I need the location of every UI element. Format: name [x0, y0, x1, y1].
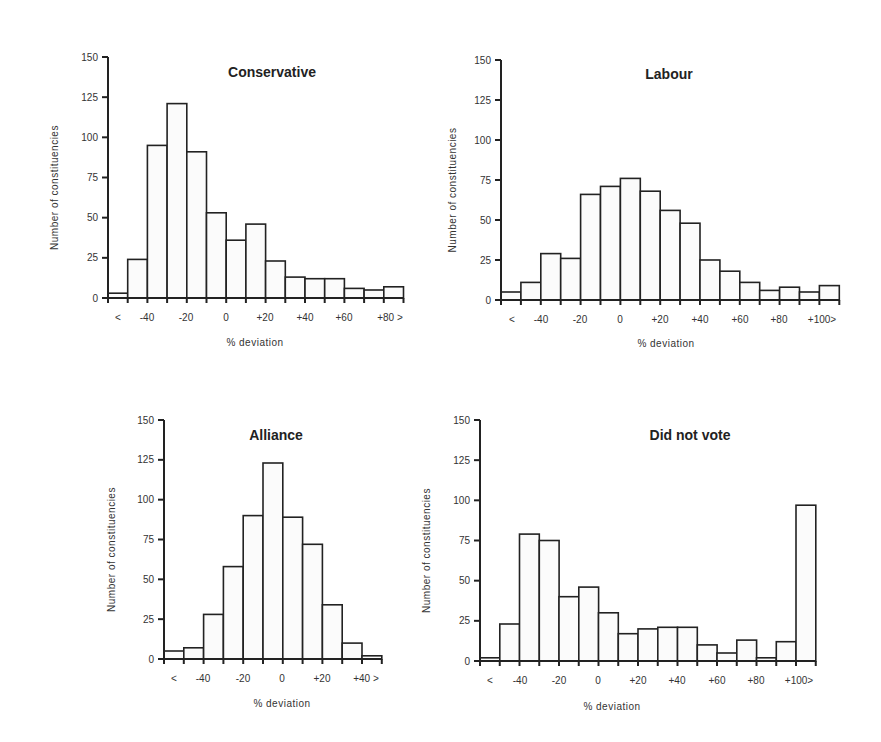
histogram-bar: -20 to -10: 90 — [243, 516, 263, 659]
histogram-bar: -30 to -20: 75 — [539, 541, 559, 662]
histogram-bar: 70 to 80: 5 — [364, 290, 384, 298]
x-tick-label: +20 — [630, 675, 647, 686]
y-axis-label: Number of constituencies — [447, 128, 458, 253]
histogram-bar: 100 to 110: 9 — [819, 286, 839, 300]
histogram-bar: 60 to 70: 11 — [740, 282, 760, 300]
y-tick-label: 150 — [81, 52, 98, 63]
x-tick-label: -40 — [196, 673, 211, 684]
histogram-bar: 10 to 20: 72 — [303, 544, 323, 659]
y-tick-label: 125 — [474, 95, 491, 106]
y-tick-label: 75 — [459, 535, 471, 546]
histogram-bar: -20 to -10: 40 — [559, 597, 579, 661]
histogram-bar: -40 to -30: 29 — [541, 254, 561, 300]
y-axis-label: Number of constituencies — [421, 488, 432, 613]
histogram-bar: -50 to -40: 23 — [500, 624, 520, 661]
x-tick-label: -20 — [573, 314, 588, 325]
histogram-bar: -50 to -40: 7 — [184, 648, 204, 659]
histogram-bar: 40 to 50: 12 — [305, 279, 325, 298]
x-tick-label: +60 — [709, 675, 726, 686]
x-tick-label: +80 > — [377, 312, 403, 323]
histogram-bar: -50 to -40: 11 — [521, 282, 541, 300]
histogram-did-not-vote: <-50: 2-50 to -40: 23-40 to -30: 79-30 t… — [421, 415, 816, 713]
histogram-bar: -40 to -30: 28 — [204, 614, 224, 659]
histogram-bar: 90 to 100: 5 — [800, 292, 820, 300]
x-tick-label: +60 — [336, 312, 353, 323]
x-tick-label: +100> — [808, 314, 837, 325]
x-axis-label: % deviation — [637, 338, 694, 349]
x-tick-label: -20 — [552, 675, 567, 686]
x-tick-label: 0 — [595, 675, 601, 686]
y-tick-label: 0 — [464, 656, 470, 667]
y-tick-label: 0 — [148, 654, 154, 665]
histogram-bar: 10 to 20: 46 — [246, 224, 266, 298]
histogram-bar: <-50: 5 — [164, 651, 184, 659]
histogram-bar: 70 to 80: 13 — [737, 640, 757, 661]
chart-title: Alliance — [249, 427, 303, 443]
x-axis-label: % deviation — [226, 337, 283, 348]
histogram-labour: <-50: 5-50 to -40: 11-40 to -30: 29-30 t… — [447, 55, 839, 350]
histogram-bar: 20 to 30: 56 — [660, 210, 680, 300]
chart-title: Did not vote — [650, 427, 731, 443]
y-tick-label: 150 — [474, 55, 491, 66]
histogram-bar: -10 to 0: 123 — [263, 463, 283, 659]
x-tick-label: +40 — [692, 314, 709, 325]
x-axis-label: % deviation — [253, 698, 310, 709]
x-tick-label: 0 — [279, 673, 285, 684]
histogram-bar: 30 to 40: 10 — [342, 643, 362, 659]
histogram-bar: -10 to 0: 46 — [579, 587, 599, 661]
histogram-bar: -30 to -20: 121 — [167, 104, 187, 298]
x-tick-label: -40 — [140, 312, 155, 323]
y-tick-label: 150 — [453, 415, 470, 426]
x-tick-label: +40 > — [353, 673, 379, 684]
x-tick-label: -40 — [513, 675, 528, 686]
histogram-bar: 20 to 30: 34 — [322, 605, 342, 659]
histogram-bar: -40 to -30: 79 — [520, 534, 540, 661]
histogram-bar: 100 to 110: 97 — [796, 505, 816, 661]
x-tick-label: -20 — [179, 312, 194, 323]
histogram-bar: 30 to 40: 13 — [285, 277, 305, 298]
histogram-bar: -20 to -10: 91 — [187, 152, 207, 298]
x-tick-label: +40 — [297, 312, 314, 323]
x-tick-label: +60 — [732, 314, 749, 325]
histogram-bar: 0 to 10: 36 — [226, 240, 246, 298]
x-tick-label: -20 — [236, 673, 251, 684]
histogram-bar: -40 to -30: 95 — [147, 145, 167, 298]
y-tick-label: 0 — [485, 295, 491, 306]
y-tick-label: 50 — [87, 212, 99, 223]
y-tick-label: 125 — [137, 454, 154, 465]
histogram-bar: <-50: 5 — [501, 292, 521, 300]
histogram-bar: 10 to 20: 68 — [640, 191, 660, 300]
histogram-bar: 70 to 80: 6 — [760, 290, 780, 300]
y-tick-label: 100 — [474, 135, 491, 146]
y-tick-label: 0 — [92, 293, 98, 304]
histogram-bar: 50 to 60: 10 — [697, 645, 717, 661]
y-tick-label: 100 — [81, 132, 98, 143]
x-tick-label: < — [171, 673, 177, 684]
y-tick-label: 125 — [81, 92, 98, 103]
chart-title: Conservative — [228, 64, 316, 80]
histogram-bar: 0 to 10: 89 — [283, 517, 303, 659]
histogram-alliance: <-50: 5-50 to -40: 7-40 to -30: 28-30 to… — [106, 415, 382, 710]
x-tick-label: +20 — [257, 312, 274, 323]
x-tick-label: 0 — [223, 312, 229, 323]
y-tick-label: 25 — [480, 255, 492, 266]
histogram-bar: 80 to 90: 7 — [384, 287, 404, 298]
figure-canvas: <-50: 3-50 to -40: 24-40 to -30: 95-30 t… — [0, 0, 881, 742]
histogram-bar: 30 to 40: 48 — [680, 223, 700, 300]
x-tick-label: < — [115, 312, 121, 323]
y-tick-label: 25 — [459, 615, 471, 626]
y-axis-label: Number of constituencies — [49, 125, 60, 250]
histogram-bar: 10 to 20: 17 — [618, 634, 638, 661]
y-tick-label: 75 — [480, 175, 492, 186]
chart-title: Labour — [645, 66, 693, 82]
y-tick-label: 100 — [453, 495, 470, 506]
x-tick-label: -40 — [534, 314, 549, 325]
x-tick-label: +20 — [314, 673, 331, 684]
histogram-conservative: <-50: 3-50 to -40: 24-40 to -30: 95-30 t… — [49, 52, 404, 349]
y-tick-label: 25 — [87, 252, 99, 263]
y-tick-label: 75 — [87, 172, 99, 183]
y-tick-label: 75 — [143, 534, 155, 545]
histogram-bar: -20 to -10: 66 — [581, 194, 601, 300]
y-tick-label: 50 — [143, 574, 155, 585]
histogram-bar: 0 to 10: 76 — [620, 178, 640, 300]
